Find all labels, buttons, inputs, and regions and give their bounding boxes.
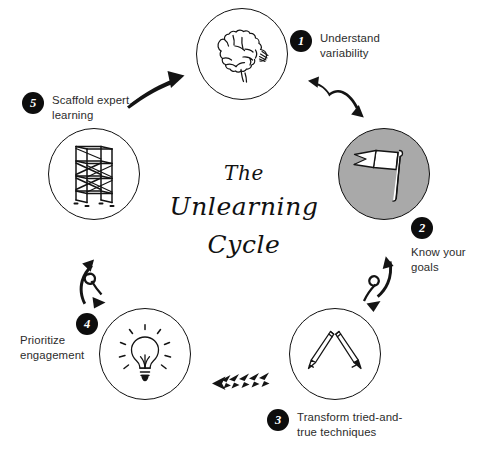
diagram-title: The Unlearning Cycle [168, 158, 320, 264]
lightbulb-icon [114, 324, 176, 384]
arrow-5-to-1 [125, 58, 187, 110]
step-badge-3: 3 [267, 409, 289, 431]
title-line-2: Unlearning [168, 188, 320, 226]
step-label-prioritize-engagement: Prioritize engagement [20, 333, 100, 362]
step-node-flag[interactable] [338, 128, 430, 220]
arrow-3-to-4 [210, 370, 272, 396]
brain-icon [211, 25, 273, 83]
step-badge-2: 2 [411, 217, 433, 239]
scaffolding-icon [67, 141, 121, 207]
title-line-3: Cycle [168, 226, 320, 264]
arrow-4-to-5 [68, 244, 118, 310]
step-node-pencils[interactable] [289, 308, 381, 400]
step-badge-1: 1 [290, 30, 312, 52]
step-node-brain[interactable] [196, 8, 288, 100]
unlearning-cycle-diagram: The Unlearning Cycle [0, 0, 484, 459]
flag-icon [352, 143, 416, 205]
step-node-lightbulb[interactable] [99, 308, 191, 400]
title-line-1: The [168, 158, 320, 188]
step-label-know-your-goals: Know your goals [411, 245, 483, 274]
arrow-2-to-3 [358, 256, 412, 318]
arrow-1-to-2 [306, 76, 378, 132]
pencils-icon [306, 327, 364, 381]
step-label-transform-techniques: Transform tried-and- true techniques [297, 410, 432, 439]
step-label-understand-variability: Understand variability [320, 31, 430, 60]
step-node-scaffolding[interactable] [48, 128, 140, 220]
step-badge-5: 5 [22, 92, 44, 114]
step-badge-4: 4 [76, 313, 98, 335]
